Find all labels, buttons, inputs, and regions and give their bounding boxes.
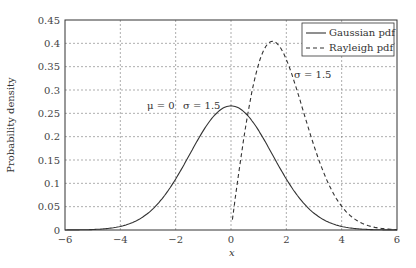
chart: −6−4−2024600.050.10.150.20.250.30.350.40… [0, 0, 416, 268]
svg-text:0.3: 0.3 [44, 85, 60, 96]
svg-text:0.4: 0.4 [44, 38, 60, 49]
annotation-sigma-gaussian: σ = 1.5 [183, 100, 220, 111]
svg-text:−4: −4 [113, 234, 128, 245]
svg-text:0.2: 0.2 [44, 131, 60, 142]
legend-gaussian-label: Gaussian pdf [329, 27, 396, 38]
svg-text:0.25: 0.25 [38, 108, 60, 119]
svg-text:0: 0 [228, 234, 234, 245]
svg-text:−2: −2 [168, 234, 183, 245]
annotation-sigma-rayleigh: σ = 1.5 [294, 69, 331, 80]
svg-text:0: 0 [54, 225, 60, 236]
svg-text:6: 6 [394, 234, 400, 245]
legend-rayleigh-label: Rayleigh pdf [329, 42, 395, 53]
svg-text:0.05: 0.05 [38, 201, 60, 212]
x-axis-label: x [229, 247, 235, 258]
svg-text:0.45: 0.45 [38, 15, 60, 26]
annotation-mu: μ = 0 [147, 100, 175, 111]
svg-text:2: 2 [283, 234, 289, 245]
y-axis-label: Probability density [5, 77, 16, 173]
svg-text:0.15: 0.15 [38, 155, 60, 166]
svg-text:0.1: 0.1 [44, 178, 60, 189]
legend: Gaussian pdf Rayleigh pdf [302, 23, 396, 56]
svg-text:0.35: 0.35 [38, 61, 60, 72]
svg-text:4: 4 [338, 234, 344, 245]
svg-text:−6: −6 [58, 234, 73, 245]
